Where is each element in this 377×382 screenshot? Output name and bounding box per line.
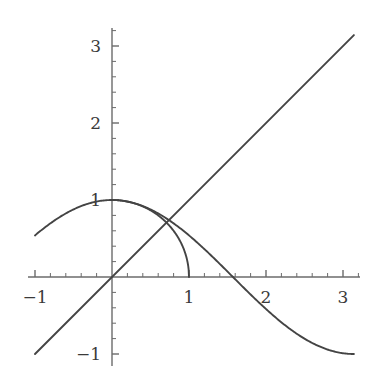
curve-y-x <box>35 35 354 354</box>
x-axis-tick-label: 1 <box>184 287 195 307</box>
x-axis-tick-label: 2 <box>261 287 272 307</box>
y-axis-tick-label: 3 <box>90 36 101 56</box>
x-axis-tick-label: 3 <box>338 287 349 307</box>
function-plot-figure: −1123−1123 <box>0 0 377 382</box>
y-axis-tick-label: 1 <box>90 190 101 210</box>
x-axis-tick-label: −1 <box>22 287 47 307</box>
y-axis-tick-label: 2 <box>90 113 101 133</box>
plot-canvas: −1123−1123 <box>0 0 377 382</box>
y-axis-tick-label: −1 <box>76 344 101 364</box>
